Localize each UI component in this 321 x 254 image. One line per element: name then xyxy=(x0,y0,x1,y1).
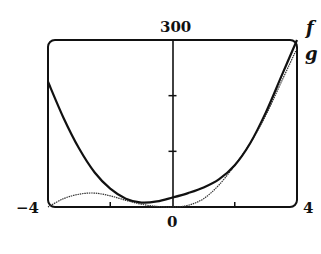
chart-plot xyxy=(0,0,321,254)
x-min-label: −4 xyxy=(16,201,39,216)
y-max-label: 300 xyxy=(160,20,191,35)
x-zero-label: 0 xyxy=(167,215,177,230)
x-max-label: 4 xyxy=(303,201,313,216)
legend-g-label: g xyxy=(305,45,318,63)
legend-f-label: f xyxy=(306,19,314,37)
